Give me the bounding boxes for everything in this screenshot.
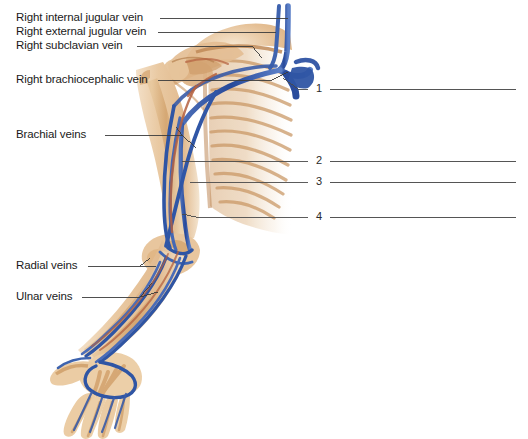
label-right-brachiocephalic-vein: Right brachiocephalic vein bbox=[16, 74, 148, 86]
leader-brachiocephalic-hook bbox=[272, 72, 288, 80]
label-right-internal-jugular-vein: Right internal jugular vein bbox=[16, 12, 143, 24]
leader-lines-layer bbox=[0, 0, 528, 439]
answer-blank-lines bbox=[330, 89, 516, 217]
leader-subclavian-hook bbox=[252, 46, 262, 58]
label-right-subclavian-vein: Right subclavian vein bbox=[16, 40, 123, 52]
leader-ulnar-fork bbox=[140, 283, 158, 297]
leader-num-4 bbox=[182, 214, 308, 217]
blank-number-1: 1 bbox=[313, 83, 325, 94]
figure-canvas: Right internal jugular vein Right extern… bbox=[0, 0, 528, 439]
blank-number-3: 3 bbox=[313, 176, 325, 187]
leader-brachial-fork bbox=[176, 127, 196, 148]
label-brachial-veins: Brachial veins bbox=[16, 129, 86, 141]
blank-number-4: 4 bbox=[313, 211, 325, 222]
leader-num-1 bbox=[283, 78, 308, 89]
label-right-external-jugular-vein: Right external jugular vein bbox=[16, 26, 146, 38]
numbered-leader-lines bbox=[182, 78, 308, 217]
blank-number-2: 2 bbox=[313, 155, 325, 166]
label-radial-veins: Radial veins bbox=[16, 260, 77, 272]
label-ulnar-veins: Ulnar veins bbox=[16, 291, 72, 303]
leader-radial-fork bbox=[140, 258, 156, 266]
